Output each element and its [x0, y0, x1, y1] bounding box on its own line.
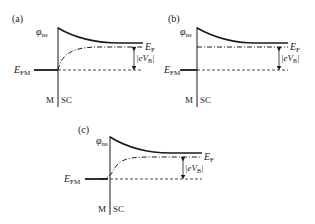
svg-text:EFM: EFM — [63, 173, 81, 186]
svg-text:SC: SC — [61, 95, 72, 105]
svg-text:φns: φns — [96, 135, 108, 148]
panel-c: (c) φns EF EFM |eVB| M SC — [63, 124, 214, 215]
svg-text:(b): (b) — [168, 13, 180, 25]
svg-text:|eVB|: |eVB| — [136, 53, 154, 64]
panel-label: (a) — [12, 13, 23, 25]
svg-text:EFM: EFM — [13, 64, 31, 77]
svg-text:SC: SC — [113, 204, 124, 214]
band-diagram-figure: (a) φns EF EFM |eVB| M SC (b) φns EF EFM… — [0, 0, 315, 224]
svg-text:M: M — [185, 95, 193, 105]
svg-text:EF: EF — [203, 151, 214, 164]
fermi-level-line — [58, 47, 143, 70]
svg-text:(c): (c) — [78, 124, 89, 136]
svg-text:EFM: EFM — [163, 64, 181, 77]
svg-text:|eVB|: |eVB| — [185, 163, 203, 174]
svg-text:φns: φns — [36, 26, 48, 39]
svg-text:|eVB|: |eVB| — [281, 53, 299, 64]
panel-b: (b) φns EF EFM |eVB| M SC — [163, 13, 300, 107]
svg-text:M: M — [98, 204, 106, 214]
panel-a: (a) φns EF EFM |eVB| M SC — [12, 13, 155, 107]
svg-text:φns: φns — [180, 26, 192, 39]
svg-text:SC: SC — [200, 95, 211, 105]
svg-text:M: M — [46, 95, 54, 105]
barrier-curve — [58, 28, 143, 43]
